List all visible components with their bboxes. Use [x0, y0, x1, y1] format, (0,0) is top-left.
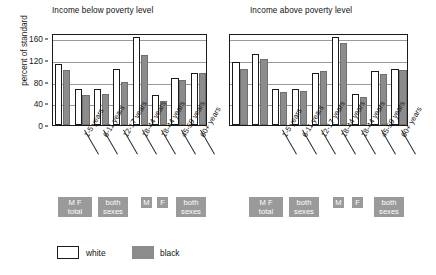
group-chip: F: [352, 197, 363, 208]
group-chip: M: [333, 197, 344, 208]
y-tick-label: 120: [29, 56, 43, 66]
bar-white: [232, 62, 239, 125]
bar-white: [55, 64, 62, 125]
bar-black: [121, 82, 128, 125]
bar-black: [380, 74, 387, 125]
bar-black: [260, 59, 267, 125]
y-tick-label: 40: [34, 99, 43, 109]
bar-black: [63, 70, 70, 125]
group-chip: both sexes: [289, 197, 319, 217]
bar-black: [240, 69, 247, 125]
y-tick-label: 0: [38, 121, 43, 131]
legend-label-white: white: [86, 248, 106, 258]
bar-group-below-poverty: [53, 35, 206, 125]
y-tick-mark: [45, 61, 48, 62]
y-tick-label: 80: [34, 78, 43, 88]
y-tick-label: 160: [29, 34, 43, 44]
group-chip: both sexes: [374, 197, 404, 217]
legend-swatch-white: [57, 246, 79, 259]
group-chip: M F total: [58, 197, 92, 217]
group-chip: both sexes: [98, 197, 128, 217]
panel-title-right: Income above poverty level: [250, 6, 352, 15]
figure-root: Income below poverty level Income above …: [0, 0, 436, 275]
bar-black: [280, 92, 287, 125]
bar-white: [272, 89, 279, 125]
group-chip: both sexes: [176, 197, 206, 217]
legend-swatch-black: [132, 246, 154, 259]
y-tick-mark: [45, 39, 48, 40]
y-axis-ticks: 04080120160: [24, 0, 48, 275]
bar-white: [75, 89, 82, 125]
group-chip: F: [157, 197, 168, 208]
y-tick-mark: [45, 82, 48, 83]
group-chip: M F total: [249, 197, 283, 217]
bar-black: [320, 71, 327, 125]
bar-black: [300, 91, 307, 125]
bar-black: [399, 70, 406, 125]
bar-white: [252, 54, 259, 125]
y-tick-mark: [45, 126, 48, 127]
y-tick-mark: [45, 104, 48, 105]
legend-label-black: black: [160, 248, 180, 258]
panel-title-left: Income below poverty level: [52, 6, 153, 15]
plot-area-below-poverty: [52, 34, 207, 126]
group-chip: M: [141, 197, 152, 208]
